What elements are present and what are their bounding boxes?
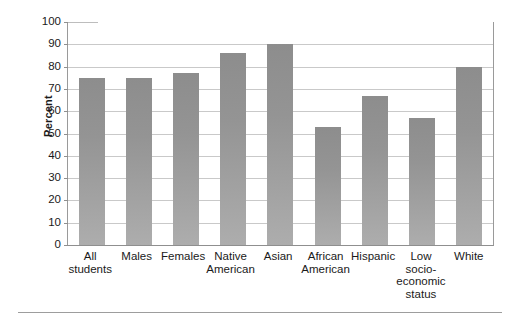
- x-axis-label: Females: [160, 250, 206, 300]
- x-axis-label: Low socio- economic status: [396, 250, 445, 300]
- y-tick-label: 60: [48, 105, 61, 117]
- bar-series: [68, 22, 493, 245]
- bar: [456, 67, 482, 245]
- bar: [79, 78, 105, 245]
- bar: [267, 44, 293, 245]
- x-axis-label: Asian: [255, 250, 301, 300]
- bar-slot: [304, 22, 351, 245]
- bar: [220, 53, 246, 245]
- y-tick-label: 100: [42, 16, 61, 28]
- x-axis-label: Native American: [206, 250, 255, 300]
- x-axis-label: Hispanic: [350, 250, 396, 300]
- bar-slot: [210, 22, 257, 245]
- bar: [315, 127, 341, 245]
- bar-slot: [68, 22, 115, 245]
- bar: [126, 78, 152, 245]
- bar: [409, 118, 435, 245]
- y-tick-label: 70: [48, 83, 61, 95]
- y-tick-label: 20: [48, 195, 61, 207]
- bar: [362, 96, 388, 245]
- x-axis-label: White: [446, 250, 492, 300]
- bar-slot: [399, 22, 446, 245]
- y-tick-label: 30: [48, 172, 61, 184]
- y-tick-label: 90: [48, 39, 61, 51]
- bar-slot: [115, 22, 162, 245]
- bar-slot: [162, 22, 209, 245]
- bottom-divider: [18, 312, 502, 313]
- y-tick-label: 40: [48, 150, 61, 162]
- y-tick-label: 10: [48, 217, 61, 229]
- x-axis-labels: All studentsMalesFemalesNative AmericanA…: [67, 250, 492, 300]
- y-tick-label: 80: [48, 61, 61, 73]
- plot-area: 0102030405060708090100: [67, 22, 494, 246]
- bar-slot: [446, 22, 493, 245]
- y-tick-label: 0: [55, 239, 61, 251]
- x-axis-label: Males: [113, 250, 159, 300]
- bar: [173, 73, 199, 245]
- x-axis-label: African American: [301, 250, 350, 300]
- y-tick-mark: [64, 245, 68, 246]
- bar-slot: [257, 22, 304, 245]
- y-tick-label: 50: [48, 128, 61, 140]
- bar-slot: [351, 22, 398, 245]
- x-axis-label: All students: [67, 250, 113, 300]
- bar-chart-figure: Percent 0102030405060708090100 All stude…: [0, 0, 518, 325]
